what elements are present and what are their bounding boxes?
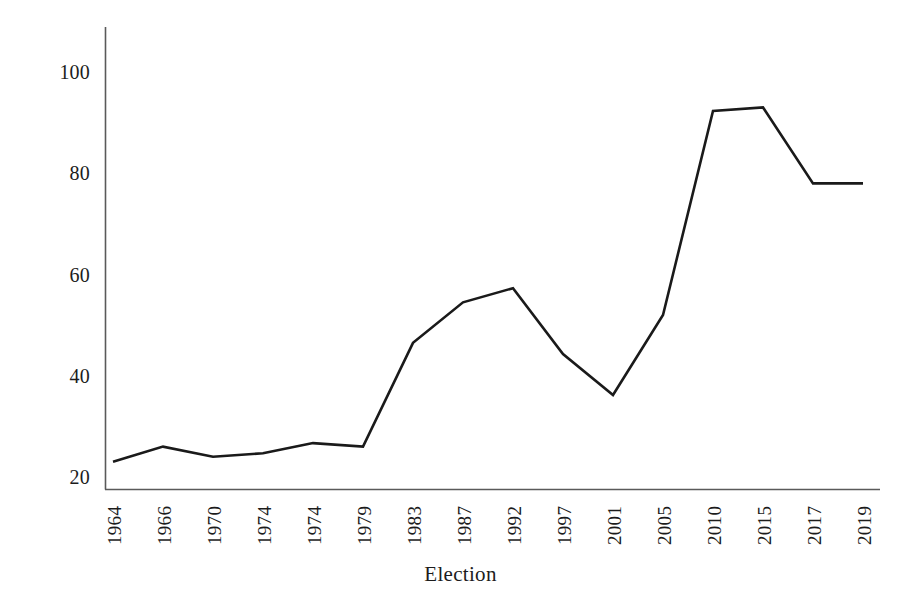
x-tick-label: 1987: [455, 506, 474, 545]
x-tick-label: 2019: [855, 506, 874, 545]
y-tick-label: 100: [20, 62, 90, 82]
x-tick-label: 1983: [405, 506, 424, 545]
line-chart: 20406080100 1964196619701974197419791983…: [0, 0, 921, 599]
x-tick-label: 1970: [205, 506, 224, 545]
y-tick-label: 20: [20, 467, 90, 487]
x-tick-label: 1997: [555, 506, 574, 545]
y-tick-label: 40: [20, 366, 90, 386]
x-tick-label: 1992: [505, 506, 524, 545]
x-tick-label: 1966: [155, 506, 174, 545]
y-tick-label: 80: [20, 163, 90, 183]
x-tick-label: 1964: [105, 506, 124, 545]
x-tick-label: 2015: [755, 506, 774, 545]
x-tick-label: 1974: [255, 506, 274, 545]
x-tick-label: 2010: [705, 506, 724, 545]
x-tick-label: 2001: [605, 506, 624, 545]
x-axis-title: Election: [0, 562, 921, 586]
x-tick-label: 2017: [805, 506, 824, 545]
y-tick-label: 60: [20, 265, 90, 285]
x-tick-label: 1974: [305, 506, 324, 545]
x-tick-label: 1979: [355, 506, 374, 545]
x-tick-label: 2005: [655, 506, 674, 545]
data-series-line: [113, 107, 863, 461]
